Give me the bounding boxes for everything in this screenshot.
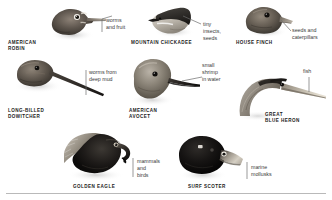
- species-label-long-billed-dowitcher: LONG-BILLED DOWITCHER: [8, 108, 44, 120]
- species-label-great-blue-heron: GREAT BLUE HERON: [265, 112, 300, 124]
- diet-label-surf-scoter: marine mollusks: [251, 164, 272, 178]
- species-label-golden-eagle: GOLDEN EAGLE: [73, 184, 115, 190]
- leader-line-mountain-chickadee: [183, 15, 205, 27]
- species-label-mountain-chickadee: MOUNTAIN CHICKADEE: [131, 40, 192, 46]
- species-label-surf-scoter: SURF SCOTER: [188, 184, 226, 190]
- species-label-house-finch: HOUSE FINCH: [236, 40, 273, 46]
- diet-label-house-finch: seeds and caterpillars: [292, 27, 318, 41]
- diet-label-mountain-chickadee: tiny insects, seeds: [203, 21, 221, 42]
- diet-label-long-billed-dowitcher: worms from deep mud: [89, 69, 117, 83]
- bird-illustration-golden-eagle: [62, 127, 138, 183]
- bird-illustration-american-avocet: [128, 56, 206, 108]
- diet-label-great-blue-heron: fish: [303, 68, 311, 75]
- leader-line-great-blue-heron: [307, 77, 313, 93]
- bird-bill-adaptations-figure: AMERICAN ROBIN worms and fruit: [0, 0, 332, 200]
- leader-line-american-avocet: [182, 72, 204, 82]
- diet-label-american-avocet: small shrimp in water: [202, 62, 221, 83]
- species-label-american-robin: AMERICAN ROBIN: [8, 40, 36, 52]
- diet-label-golden-eagle: mammals and birds: [137, 158, 160, 179]
- species-label-american-avocet: AMERICAN AVOCET: [129, 108, 157, 120]
- bird-illustration-surf-scoter: [175, 133, 251, 183]
- bottom-divider: [6, 193, 326, 194]
- diet-label-american-robin: worms and fruit: [106, 17, 125, 31]
